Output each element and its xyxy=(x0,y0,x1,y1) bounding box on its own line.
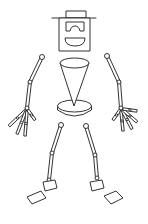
left-finger-1-knuckle xyxy=(16,117,18,119)
right-leg-lower xyxy=(94,155,99,178)
left-arm-top-joint xyxy=(40,55,45,60)
left-arm-lower xyxy=(26,82,32,108)
left-finger-3-tip xyxy=(24,123,27,136)
left-leg-top-joint xyxy=(59,123,64,128)
right-arm-upper xyxy=(106,55,121,82)
right-leg-top-joint xyxy=(84,124,89,129)
robot-illustration xyxy=(0,0,148,224)
cone-top xyxy=(60,58,89,68)
left-arm-middle-joint xyxy=(28,80,32,84)
left-finger-4-knuckle xyxy=(30,114,32,116)
left-leg-lower xyxy=(48,153,54,180)
right-leg-end-joint xyxy=(95,176,99,180)
right-arm-middle-joint xyxy=(117,80,121,84)
left-leg-middle-joint xyxy=(50,151,54,155)
robot-feet xyxy=(27,180,123,204)
right-finger-2-knuckle xyxy=(121,120,123,122)
left-finger-3-segment xyxy=(25,111,28,124)
right-finger-1-knuckle xyxy=(115,114,117,116)
robot-head xyxy=(52,11,96,51)
left-ankle-block xyxy=(43,180,57,191)
smile-mouth xyxy=(65,38,85,46)
hat-crown xyxy=(66,11,86,18)
robot-figure-svg xyxy=(0,0,148,224)
left-leg-upper xyxy=(51,125,63,154)
right-arm-lower xyxy=(118,82,123,108)
right-finger-4-knuckle xyxy=(129,115,131,117)
left-shoe-block xyxy=(27,191,46,204)
cone-body xyxy=(60,63,89,106)
right-ankle-block xyxy=(90,180,104,191)
right-leg-upper xyxy=(85,126,97,156)
right-leg-middle-joint xyxy=(93,153,97,157)
robot-torso xyxy=(58,58,92,116)
right-finger-3-knuckle xyxy=(126,118,128,120)
left-arm-upper xyxy=(29,56,44,82)
right-arm-top-joint xyxy=(105,54,110,59)
left-finger-3-knuckle xyxy=(25,122,27,124)
right-finger-5-knuckle xyxy=(129,109,131,111)
left-finger-2-knuckle xyxy=(20,121,22,123)
right-shoe-block xyxy=(104,191,123,204)
